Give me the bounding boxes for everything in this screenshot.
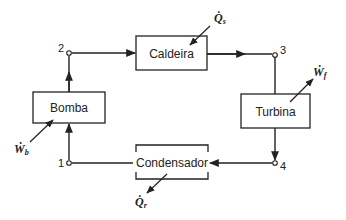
state-point-1 xyxy=(67,161,72,166)
turbine-label: Turbina xyxy=(255,105,296,119)
heat-in-symbol: Q̇s xyxy=(214,11,226,26)
state-label-1: 1 xyxy=(58,157,64,169)
work-pump-symbol: Ẇb xyxy=(14,142,29,157)
state-label-3: 3 xyxy=(280,44,286,56)
work-turbine-symbol: Ẇf xyxy=(313,65,328,80)
state-point-2 xyxy=(67,51,72,56)
pump-label: Bomba xyxy=(50,101,88,115)
condenser-label: Condensador xyxy=(136,156,208,170)
state-point-3 xyxy=(273,53,278,58)
boiler-label: Caldeira xyxy=(149,47,194,61)
rankine-cycle-diagram: Caldeira Bomba Turbina Condensador 1 2 3… xyxy=(0,0,346,220)
heat-out-arrow xyxy=(147,174,167,193)
state-label-4: 4 xyxy=(280,160,286,172)
state-label-2: 2 xyxy=(58,42,64,54)
state-point-4 xyxy=(273,161,278,166)
heat-out-symbol: Q̇r xyxy=(135,195,148,210)
